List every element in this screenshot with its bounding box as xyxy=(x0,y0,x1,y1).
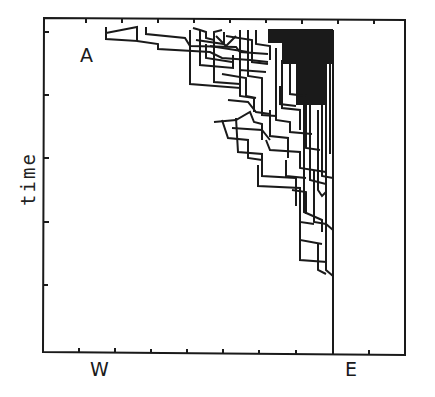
trajectory-plot xyxy=(0,0,435,397)
y-axis-label: time xyxy=(17,149,39,209)
plot-frame xyxy=(43,18,405,355)
x-tick-label-east: E xyxy=(345,358,357,380)
panel-label: A xyxy=(80,44,93,66)
x-tick-label-west: W xyxy=(90,358,109,380)
trajectories xyxy=(106,27,333,276)
